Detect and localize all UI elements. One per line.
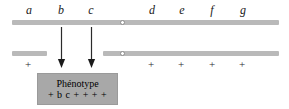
bottom-chromosome-right-fragment — [103, 51, 279, 56]
bottom-centromere-icon — [120, 51, 125, 56]
gene-label-c: c — [88, 4, 93, 16]
top-centromere-icon — [120, 20, 125, 25]
bottom-chromosome-left-fragment — [12, 51, 47, 56]
phenotype-box: Phénotype + b c + + + + — [37, 73, 118, 105]
arrow-c — [86, 27, 97, 73]
plus-mark-1: + — [25, 59, 31, 70]
gene-label-g: g — [240, 4, 246, 16]
gene-label-a: a — [26, 4, 32, 16]
phenotype-formula: + b c + + + + — [48, 89, 107, 101]
arrow-b — [56, 27, 67, 73]
chromosome-deletion-diagram: a b c d e f g + + + + + Phénotype + b c … — [0, 0, 289, 109]
plus-mark-5: + — [239, 59, 245, 70]
phenotype-title: Phénotype — [56, 78, 98, 90]
plus-mark-3: + — [178, 59, 184, 70]
arrow-down-icon — [86, 27, 97, 69]
plus-mark-2: + — [148, 59, 154, 70]
gene-label-e: e — [179, 4, 184, 16]
top-chromosome-bar — [12, 20, 279, 25]
gene-label-f: f — [210, 4, 213, 16]
arrow-down-icon — [56, 27, 67, 69]
plus-mark-4: + — [209, 59, 215, 70]
gene-label-d: d — [149, 4, 155, 16]
gene-label-b: b — [58, 4, 64, 16]
